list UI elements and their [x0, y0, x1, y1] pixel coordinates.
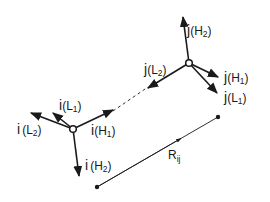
rij-start-dot: [95, 185, 99, 189]
label-j-L2: j(L2): [143, 61, 167, 78]
orientation-diagram: i(L1) i(L2) i(H1) i(H2) j(H2) j(L2) j(H1…: [0, 0, 270, 202]
frame-j-origin-node: [186, 60, 193, 67]
label-i-H1: i(H1): [91, 122, 116, 139]
label-i-L1: i(L1): [59, 97, 82, 114]
frame-i: i(L1) i(L2) i(H1) i(H2): [17, 97, 116, 176]
axis-j-H1-arrow: [189, 63, 218, 77]
label-j-H1: j(H1): [223, 69, 249, 86]
frame-i-origin-node: [70, 126, 77, 133]
label-i-H2: i(H2): [85, 157, 112, 174]
label-i-L2: i(L2): [17, 121, 42, 138]
rij-end-dot: [216, 115, 220, 119]
label-j-L1: j(L1): [223, 89, 247, 106]
label-rij: Rij: [168, 148, 181, 164]
axis-i-H2-arrow: [73, 129, 79, 176]
label-j-H2: j(H2): [186, 22, 212, 39]
axis-j-L1-arrow: [189, 63, 217, 93]
frame-j: j(H2) j(L2) j(H1) j(L1): [143, 17, 249, 106]
frame-connector-dashed-line: [113, 87, 148, 111]
